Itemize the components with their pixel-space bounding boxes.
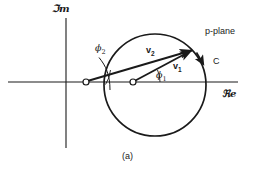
angle-phi1-label-sub: 1 <box>162 75 166 83</box>
vector-v2-label-sub: 2 <box>151 50 155 57</box>
real-axis-label: ℜe <box>222 89 236 99</box>
contour-label: C <box>213 57 220 66</box>
imaginary-axis-label: ℑm <box>52 4 70 14</box>
angle-phi2-label-sub: 2 <box>101 48 105 56</box>
vector-v2-label: v2 <box>146 46 155 57</box>
figure-caption: (a) <box>122 152 133 161</box>
contour-circle <box>104 34 206 136</box>
plane-label: p-plane <box>205 27 235 36</box>
pole-marker-right <box>130 79 136 85</box>
angle-phi1-label: ϕ1 <box>156 70 167 82</box>
angle-phi2-label: ϕ2 <box>95 43 106 55</box>
pole-marker-left <box>83 79 89 85</box>
vector-v1-label: v1 <box>173 62 182 73</box>
figure-container: ℑm ℜe p-plane C v2 v1 ϕ2 ϕ1 (a) <box>0 0 262 174</box>
vector-v1-label-sub: 1 <box>178 66 182 73</box>
